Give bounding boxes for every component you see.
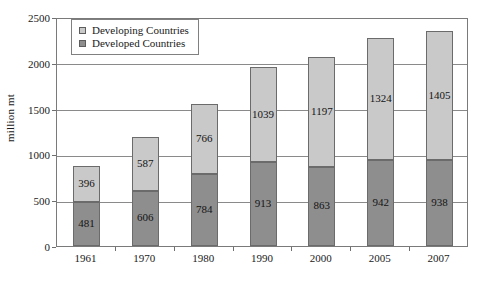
x-axis-tick-mark <box>409 247 410 251</box>
bar-label-developing: 766 <box>192 133 217 144</box>
stacked-bar-chart: million mt 05001000150020002500 48139660… <box>0 0 483 283</box>
bar-label-developed: 481 <box>74 218 99 229</box>
bar-segment-developed[interactable]: 913 <box>250 162 277 246</box>
bar-group[interactable]: 9131039 <box>250 19 277 246</box>
x-axis-tick-mark <box>174 247 175 251</box>
bar-segment-developing[interactable]: 1039 <box>250 67 277 162</box>
x-axis-tick-label: 1980 <box>173 252 233 264</box>
legend-swatch-developed-icon <box>79 40 86 47</box>
bar-segment-developing[interactable]: 1405 <box>426 31 453 160</box>
bar-label-developed: 606 <box>133 212 158 223</box>
legend-label-developing: Developing Countries <box>92 25 189 36</box>
bar-group[interactable]: 9421324 <box>367 19 394 246</box>
bar-label-developed: 784 <box>192 204 217 215</box>
bar-label-developed: 938 <box>427 197 452 208</box>
x-axis-tick-mark <box>350 247 351 251</box>
bar-segment-developed[interactable]: 938 <box>426 160 453 246</box>
legend-label-developed: Developed Countries <box>92 38 185 49</box>
y-axis-tick-label: 1000 <box>10 150 50 161</box>
x-axis-tick-mark <box>233 247 234 251</box>
legend-item-developed: Developed Countries <box>79 37 189 50</box>
y-axis-tick-label: 2500 <box>10 13 50 24</box>
y-axis-tick-label: 0 <box>10 242 50 253</box>
bar-segment-developing[interactable]: 587 <box>132 137 159 191</box>
bar-segment-developed[interactable]: 481 <box>73 202 100 246</box>
bar-segment-developed[interactable]: 784 <box>191 174 218 246</box>
y-axis-tick-label: 2000 <box>10 59 50 70</box>
bar-segment-developed[interactable]: 863 <box>308 167 335 246</box>
x-axis-tick-label: 2005 <box>350 252 410 264</box>
bar-segment-developed[interactable]: 606 <box>132 191 159 247</box>
x-axis-tick-label: 1961 <box>55 252 115 264</box>
y-axis-tick-mark <box>52 247 56 248</box>
legend-swatch-developing-icon <box>79 27 86 34</box>
bar-label-developing: 1405 <box>427 90 452 101</box>
y-axis-tick-label: 500 <box>10 196 50 207</box>
bar-label-developing: 396 <box>74 178 99 189</box>
bar-segment-developing[interactable]: 396 <box>73 166 100 202</box>
bar-label-developed: 913 <box>251 198 276 209</box>
y-axis-title: million mt <box>4 83 16 153</box>
x-axis-tick-label: 2007 <box>409 252 469 264</box>
x-axis-tick-label: 1970 <box>114 252 174 264</box>
chart-legend: Developing Countries Developed Countries <box>71 19 199 55</box>
x-axis-tick-label: 2000 <box>291 252 351 264</box>
x-axis-tick-label: 1990 <box>232 252 292 264</box>
bar-label-developing: 1324 <box>368 93 393 104</box>
bar-group[interactable]: 9381405 <box>426 19 453 246</box>
bar-label-developed: 942 <box>368 197 393 208</box>
bar-label-developing: 587 <box>133 158 158 169</box>
bar-group[interactable]: 8631197 <box>308 19 335 246</box>
bar-label-developing: 1039 <box>251 109 276 120</box>
legend-item-developing: Developing Countries <box>79 24 189 37</box>
bar-segment-developing[interactable]: 1324 <box>367 38 394 159</box>
x-axis-tick-mark <box>115 247 116 251</box>
y-axis-tick-label: 1500 <box>10 105 50 116</box>
bar-segment-developed[interactable]: 942 <box>367 160 394 246</box>
bar-label-developing: 1197 <box>309 106 334 117</box>
bar-segment-developing[interactable]: 766 <box>191 104 218 174</box>
x-axis-tick-mark <box>291 247 292 251</box>
bar-segment-developing[interactable]: 1197 <box>308 57 335 167</box>
bar-label-developed: 863 <box>309 200 334 211</box>
